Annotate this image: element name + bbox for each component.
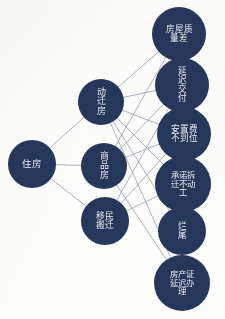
graph-node-hit-n2[interactable] xyxy=(81,143,127,189)
graph-edge xyxy=(55,165,82,166)
diagram-canvas: 住房动迁房商品房移民搬迁房屋质量差延迟交付安置费不到位承诺拆迁不动工烂尾房产证延… xyxy=(0,0,225,319)
graph-edge xyxy=(118,51,160,87)
graph-node-hit-n1[interactable] xyxy=(78,79,124,125)
graph-node-hit-n0[interactable] xyxy=(8,140,56,188)
graph-node-hit-n7[interactable] xyxy=(155,156,211,212)
graph-edge xyxy=(49,117,85,149)
graph-edge xyxy=(50,178,87,207)
graph-node-hit-n9[interactable] xyxy=(154,255,210,311)
graph-node-hit-n6[interactable] xyxy=(157,107,211,161)
graph-edge xyxy=(123,90,157,97)
graph-edge xyxy=(126,196,159,212)
graph-node-hit-n3[interactable] xyxy=(81,197,129,245)
graph-node-hit-n5[interactable] xyxy=(155,58,209,112)
graph-edge xyxy=(122,110,160,125)
graph-node-hit-n8[interactable] xyxy=(158,207,206,255)
graph-node-hit-n4[interactable] xyxy=(152,7,206,61)
